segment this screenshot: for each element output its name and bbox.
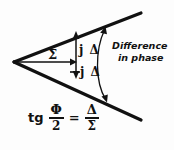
phase-difference-caption: Difference in phase	[112, 40, 167, 64]
formula-right-numerator: Δ	[85, 103, 99, 117]
phase-formula: tg Φ 2 = Δ Σ	[28, 103, 99, 132]
difference-axis-arrowhead-up	[73, 31, 80, 39]
formula-right-denominator: Σ	[86, 119, 98, 132]
formula-left-numerator: Φ	[49, 103, 64, 117]
formula-left-denominator: 2	[50, 119, 62, 132]
monopulse-phase-diagram: Σ j Δ -j Δ Difference in phase tg Φ 2 = …	[0, 0, 174, 150]
formula-function-label: tg	[28, 110, 44, 125]
delta-positive-label: j Δ	[79, 44, 100, 56]
sum-vector-label: Σ	[48, 48, 57, 61]
formula-left-fraction: Φ 2	[49, 103, 64, 132]
formula-equals-sign: =	[69, 110, 80, 125]
formula-right-fraction: Δ Σ	[85, 103, 99, 132]
phase-difference-caption-line1: Difference	[112, 40, 167, 51]
delta-negative-label: -j Δ	[74, 66, 101, 78]
phase-difference-caption-line2: in phase	[112, 52, 167, 64]
